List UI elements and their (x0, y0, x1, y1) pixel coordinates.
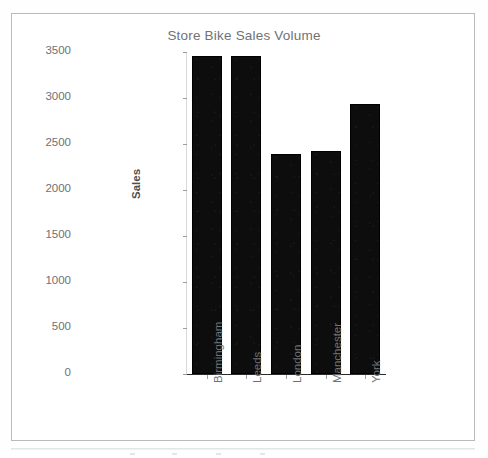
bar-group[interactable] (231, 52, 261, 374)
bar-leeds[interactable] (231, 56, 261, 374)
x-tick-label-birmingham: Birmingham (212, 322, 224, 383)
x-tick-mark (207, 375, 208, 379)
scan-bottom-edge (11, 448, 475, 450)
bar-york[interactable] (350, 104, 380, 374)
bar-group[interactable] (271, 52, 301, 374)
chart-title: Store Bike Sales Volume (12, 28, 476, 43)
scan-speck (216, 453, 221, 455)
x-tick-mark (326, 375, 327, 379)
x-tick-mark (286, 375, 287, 379)
y-tick-label: 1000 (11, 274, 71, 286)
y-tick-label: 3000 (11, 90, 71, 102)
x-tick-label-london: London (291, 345, 303, 383)
scan-speck (172, 453, 177, 455)
y-tick-label: 500 (11, 320, 71, 332)
y-axis-title: Sales (130, 139, 142, 199)
chart-frame: Store Bike Sales Volume Sales 0500100015… (11, 13, 475, 441)
x-tick-label-leeds: Leeds (251, 352, 263, 383)
scan-speck (130, 453, 135, 455)
y-tick-label: 3500 (11, 44, 71, 56)
x-tick-mark (246, 375, 247, 379)
y-tick-label: 2000 (11, 182, 71, 194)
x-tick-mark (365, 375, 366, 379)
x-tick-label-york: York (370, 360, 382, 383)
bar-group[interactable] (350, 52, 380, 374)
y-tick-mark (183, 374, 187, 375)
scan-speck (260, 453, 265, 455)
bar-london[interactable] (271, 154, 301, 374)
scan-specks (120, 452, 290, 456)
y-tick-label: 2500 (11, 136, 71, 148)
x-tick-label-manchester: Manchester (331, 323, 343, 383)
y-tick-label: 1500 (11, 228, 71, 240)
y-tick-label: 0 (11, 366, 71, 378)
scanned-page: Store Bike Sales Volume Sales 0500100015… (0, 0, 488, 458)
